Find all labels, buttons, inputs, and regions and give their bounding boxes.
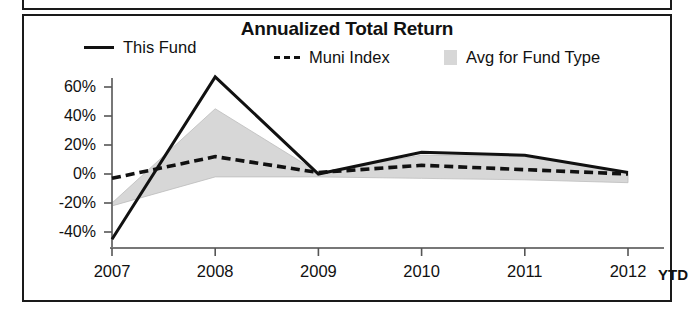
x-axis-tick-label: 2011 — [507, 262, 542, 281]
chart-screenshot: Annualized Total Return This Fund Muni I… — [0, 0, 695, 309]
clipped-panel-border — [22, 0, 672, 10]
y-axis-tick-label: -40% — [32, 223, 96, 241]
x-axis-tick-label: 2007 — [94, 262, 131, 281]
y-axis-tick-label: 0% — [32, 165, 96, 183]
plot-area: 60%40%20%0%-20%-40% 20072008200920102011… — [24, 16, 674, 304]
chart-frame: Annualized Total Return This Fund Muni I… — [22, 14, 672, 302]
x-axis-tick-label: 2008 — [197, 262, 234, 281]
y-axis-tick-label: 40% — [32, 107, 96, 125]
y-axis-tick-label: 20% — [32, 136, 96, 154]
x-axis-tick-label: 2012 — [610, 262, 647, 281]
y-axis-tick-label: 60% — [32, 78, 96, 96]
x-axis-tick-label: 2009 — [300, 262, 337, 281]
x-axis-tick-label: 2010 — [403, 262, 440, 281]
y-axis-tick-label: -20% — [32, 194, 96, 212]
plot-svg — [24, 16, 674, 304]
x-axis-ytd-note: YTD — [658, 266, 688, 283]
